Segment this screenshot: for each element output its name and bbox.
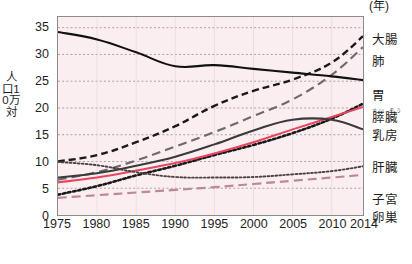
legend-item-0[interactable]: 大腸 — [372, 34, 398, 47]
series-line-5 — [58, 118, 363, 177]
plot-svg — [58, 17, 363, 215]
x-axis-tick-label: 1985 — [122, 218, 150, 231]
y-axis-tick-label: 15 — [35, 129, 49, 142]
y-axis-tick-label: 20 — [35, 102, 49, 115]
x-axis-tick-label: 2010 — [319, 218, 347, 231]
x-axis-tick-label: 2005 — [279, 218, 307, 231]
x-axis-tick-label: 2000 — [240, 218, 268, 231]
series-line-0 — [58, 36, 363, 161]
x-axis-tick-label: 1975 — [43, 218, 71, 231]
series-line-1 — [58, 47, 363, 180]
cancer-mortality-line-chart: 35302520151050 人口10万対 197519801985199019… — [0, 0, 412, 264]
legend-item-6[interactable]: 子宮 — [372, 194, 398, 207]
legend-item-label: 大腸 — [372, 33, 398, 47]
legend-item-label: 膵臓 — [372, 111, 398, 125]
series-line-3 — [58, 104, 363, 195]
legend-item-1[interactable]: 肺 — [372, 56, 385, 69]
legend-item-label: 子宮 — [372, 193, 398, 207]
y-axis-tick-label: 10 — [35, 156, 49, 169]
series-line-2 — [58, 32, 363, 80]
series-line-7 — [58, 175, 363, 198]
x-axis: 197519801985199019952000200520102014 — [0, 218, 412, 242]
y-axis-tick-label: 25 — [35, 75, 49, 88]
plot-area — [57, 16, 364, 216]
legend-item-3[interactable]: すい ぞう膵臓 — [372, 108, 403, 125]
legend-item-label: 卵巣 — [372, 211, 398, 225]
y-axis-title: 人口10万対 — [2, 72, 20, 119]
x-axis-tick-label: 1990 — [161, 218, 189, 231]
legend-item-5[interactable]: 肝臓 — [372, 162, 398, 175]
legend-item-4[interactable]: 乳房 — [372, 130, 398, 143]
y-axis-tick-label: 35 — [35, 21, 49, 34]
legend-item-label: 肝臓 — [372, 161, 398, 175]
legend-item-2[interactable]: 胃 — [372, 90, 385, 103]
legend: 大腸肺胃すい ぞう膵臓乳房肝臓子宮卵巣 — [372, 16, 412, 216]
x-axis-unit: (年) — [369, 0, 389, 12]
y-axis-tick-label: 30 — [35, 48, 49, 61]
legend-item-label: 乳房 — [372, 129, 398, 143]
y-axis-tick-label: 5 — [42, 183, 49, 196]
legend-item-label: 胃 — [372, 89, 385, 103]
legend-item-7[interactable]: 卵巣 — [372, 212, 398, 225]
x-axis-tick-label: 1980 — [82, 218, 110, 231]
x-axis-tick-label: 1995 — [201, 218, 229, 231]
legend-item-label: 肺 — [372, 55, 385, 69]
